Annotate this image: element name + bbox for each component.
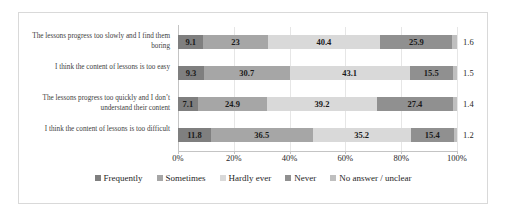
legend-swatch-icon <box>157 175 163 181</box>
bar-segment[interactable]: 7.1 <box>178 97 198 111</box>
bar-segment[interactable]: 15.5 <box>410 66 453 80</box>
bar-segment-value: 27.4 <box>407 100 422 109</box>
bar-segment-value: 11.8 <box>187 131 201 140</box>
bar-segment[interactable]: 35.2 <box>313 128 411 142</box>
legend-label: Frequently <box>104 173 143 183</box>
bar-segment-value: 9.3 <box>186 69 197 78</box>
bar-segment-value: 35.2 <box>354 131 369 140</box>
legend-label: Hardly ever <box>229 173 272 183</box>
legend-swatch-icon <box>285 175 291 181</box>
bar-segment-value: 36.5 <box>254 131 269 140</box>
bar-segment-value: 15.4 <box>425 131 440 140</box>
legend-item[interactable]: Frequently <box>95 173 143 183</box>
x-tick-label: 20% <box>214 153 254 163</box>
chart-legend: FrequentlySometimesHardly everNeverNo an… <box>19 173 487 183</box>
bar-segment[interactable]: 43.1 <box>290 66 410 80</box>
bar-segment[interactable]: 9.1 <box>178 35 203 49</box>
bar-segment[interactable]: 39.2 <box>267 97 376 111</box>
legend-swatch-icon <box>330 175 336 181</box>
bar-segment[interactable]: 25.9 <box>380 35 452 49</box>
no-answer-value-label: 1.6 <box>463 37 491 47</box>
bar-segment[interactable] <box>453 66 457 80</box>
category-label: The lessons progress too slowly and I fi… <box>20 31 170 51</box>
legend-item[interactable]: Sometimes <box>157 173 206 183</box>
bar-segment[interactable]: 9.3 <box>178 66 204 80</box>
legend-label: Sometimes <box>166 173 206 183</box>
bar-segment-value: 30.7 <box>239 69 254 78</box>
bar-segment-value: 40.4 <box>316 38 331 47</box>
bar-segment[interactable]: 15.4 <box>411 128 454 142</box>
bar-segment-value: 43.1 <box>342 69 357 78</box>
legend-label: Never <box>294 173 316 183</box>
x-tick-label: 80% <box>381 153 421 163</box>
x-tick-label: 100% <box>437 153 477 163</box>
x-tick-label: 40% <box>270 153 310 163</box>
bar-segment[interactable] <box>454 128 457 142</box>
bar-row[interactable]: 9.12340.425.9 <box>178 35 457 49</box>
x-tick-label: 0% <box>158 153 198 163</box>
bar-row[interactable]: 11.836.535.215.4 <box>178 128 457 142</box>
category-label: I think the content of lessons is too di… <box>20 124 170 134</box>
no-answer-value-label: 1.2 <box>463 130 491 140</box>
no-answer-value-label: 1.5 <box>463 68 491 78</box>
bar-segment[interactable]: 23 <box>203 35 267 49</box>
bar-segment-value: 25.9 <box>409 38 424 47</box>
bar-row[interactable]: 9.330.743.115.5 <box>178 66 457 80</box>
bar-segment-value: 39.2 <box>315 100 330 109</box>
bar-segment[interactable]: 40.4 <box>268 35 381 49</box>
gridline <box>457 27 458 151</box>
legend-item[interactable]: No answer / unclear <box>330 173 411 183</box>
category-label: The lessons progress too quickly and I d… <box>20 93 170 113</box>
bar-segment-value: 7.1 <box>183 100 194 109</box>
bar-segment-value: 23 <box>231 38 240 47</box>
bar-segment[interactable]: 11.8 <box>178 128 211 142</box>
bar-row[interactable]: 7.124.939.227.4 <box>178 97 457 111</box>
plot-area: 9.12340.425.99.330.743.115.57.124.939.22… <box>178 27 457 151</box>
bar-segment-value: 24.9 <box>225 100 240 109</box>
bar-segment-value: 9.1 <box>185 38 196 47</box>
bar-segment[interactable] <box>453 97 457 111</box>
bar-segment[interactable]: 36.5 <box>211 128 313 142</box>
legend-swatch-icon <box>95 175 101 181</box>
x-tick-label: 60% <box>325 153 365 163</box>
legend-swatch-icon <box>220 175 226 181</box>
legend-item[interactable]: Hardly ever <box>220 173 272 183</box>
bar-segment-value: 15.5 <box>424 69 439 78</box>
bar-segment[interactable]: 24.9 <box>198 97 267 111</box>
bar-segment[interactable] <box>452 35 456 49</box>
bar-segment[interactable]: 27.4 <box>377 97 453 111</box>
chart-frame: 9.12340.425.99.330.743.115.57.124.939.22… <box>18 12 488 204</box>
no-answer-value-label: 1.4 <box>463 99 491 109</box>
bar-segment[interactable]: 30.7 <box>204 66 290 80</box>
x-axis-line <box>178 151 457 152</box>
legend-label: No answer / unclear <box>339 173 411 183</box>
legend-item[interactable]: Never <box>285 173 316 183</box>
category-label: I think the content of lessons is too ea… <box>20 62 170 72</box>
